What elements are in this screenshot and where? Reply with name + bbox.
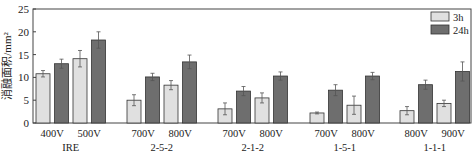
bar-chart: 0510152025消融面积/mm²400V500VIRE700V800V2-5… bbox=[0, 0, 475, 155]
y-axis-label: 消融面积/mm² bbox=[0, 32, 13, 100]
x-tick-label: 800V bbox=[260, 128, 284, 139]
bar-24h bbox=[55, 64, 69, 123]
group-label: 2-5-2 bbox=[150, 142, 173, 153]
x-tick-label: 400V bbox=[41, 128, 65, 139]
bar-24h bbox=[366, 76, 380, 123]
x-tick-label: 700V bbox=[315, 128, 339, 139]
x-tick-label: 700V bbox=[223, 128, 247, 139]
group-label: 2-1-2 bbox=[241, 142, 264, 153]
group-label: IRE bbox=[62, 142, 79, 153]
y-tick-label: 0 bbox=[24, 117, 30, 129]
group-label: 1-5-1 bbox=[333, 142, 356, 153]
y-tick-label: 15 bbox=[18, 49, 30, 61]
legend-swatch-24h bbox=[431, 25, 449, 34]
bar-3h bbox=[36, 74, 50, 123]
legend-label: 24h bbox=[453, 25, 470, 36]
y-tick-label: 5 bbox=[24, 94, 30, 106]
bar-3h bbox=[164, 85, 178, 123]
bar-24h bbox=[146, 77, 160, 123]
x-tick-label: 800V bbox=[405, 128, 429, 139]
bar-24h bbox=[183, 62, 197, 123]
group-label: 1-1-1 bbox=[423, 142, 446, 153]
x-tick-label: 700V bbox=[132, 128, 156, 139]
y-tick-label: 25 bbox=[18, 3, 30, 15]
y-tick-label: 10 bbox=[18, 71, 30, 83]
x-tick-label: 800V bbox=[169, 128, 193, 139]
bar-24h bbox=[419, 85, 433, 123]
bar-3h bbox=[310, 113, 324, 123]
x-tick-label: 900V bbox=[442, 128, 466, 139]
bar-24h bbox=[92, 40, 106, 123]
legend-label: 3h bbox=[453, 12, 464, 23]
y-tick-label: 20 bbox=[18, 26, 30, 38]
x-tick-label: 800V bbox=[352, 128, 376, 139]
bar-24h bbox=[274, 76, 288, 123]
bar-3h bbox=[73, 59, 87, 123]
legend-swatch-3h bbox=[431, 12, 449, 21]
x-tick-label: 500V bbox=[78, 128, 102, 139]
